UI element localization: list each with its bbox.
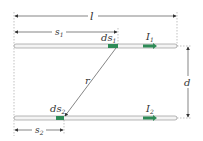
ds1-label: ds1 — [101, 32, 116, 44]
length-label: l — [90, 10, 94, 23]
r-label: r — [85, 75, 91, 86]
d-label: d — [184, 77, 190, 88]
I2-label: I2 — [145, 103, 154, 115]
parallel-wires-diagram: l s1 ds1 I1 ds2 I2 s2 r d — [0, 0, 203, 141]
I1-label: I1 — [145, 31, 154, 43]
ds1-element — [108, 44, 118, 48]
r-vector — [65, 48, 116, 116]
ds2-label: ds2 — [50, 103, 66, 115]
ds2-element — [56, 116, 64, 120]
